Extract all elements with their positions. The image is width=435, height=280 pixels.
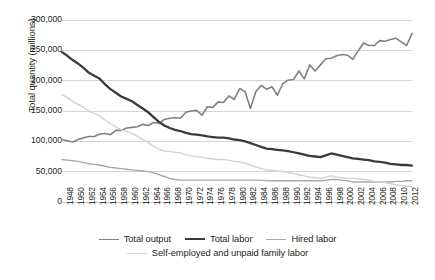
legend-swatch-total-output (99, 239, 119, 240)
chart-area: Total quantity (millions) 300,000250,000… (0, 0, 435, 232)
x-axis-tick-label: 1982 (248, 187, 258, 205)
x-axis-tick-label: 1974 (205, 187, 215, 205)
x-axis-tick-label: 2010 (399, 187, 409, 205)
legend-label-total-output: Total output (124, 234, 171, 244)
legend-label-total-labor: Total labor (210, 234, 252, 244)
x-axis-tick-label: 2012 (410, 187, 420, 205)
x-axis-tick-label: 1956 (108, 187, 118, 205)
x-axis-tick-label: 1978 (227, 187, 237, 205)
x-axis-tick-label: 1998 (335, 187, 345, 205)
x-axis-tick-label: 1996 (324, 187, 334, 205)
x-axis-tick-label: 2000 (345, 187, 355, 205)
legend-swatch-hired-labor (266, 239, 286, 240)
x-axis-tick-label: 2004 (367, 187, 377, 205)
x-axis-tick-label: 1990 (292, 187, 302, 205)
x-axis-tick-label: 1980 (238, 187, 248, 205)
x-axis-tick-label: 1994 (313, 187, 323, 205)
x-axis-tick-label: 2008 (388, 187, 398, 205)
x-axis-tick-label: 1964 (152, 187, 162, 205)
chart-legend: Total output Total labor Hired labor Sel… (0, 232, 435, 266)
legend-item-self-employed: Self-employed and unpaid family labor (127, 248, 308, 258)
x-axis-tick-label: 1986 (270, 187, 280, 205)
x-axis-tick-label: 1952 (87, 187, 97, 205)
legend-swatch-self-employed (127, 253, 147, 254)
legend-swatch-total-labor (185, 238, 205, 240)
x-axis-tick-label: 1954 (98, 187, 108, 205)
x-axis-tick-label: 2002 (356, 187, 366, 205)
figure-caption (0, 268, 435, 277)
x-axis-tick-label: 1958 (119, 187, 129, 205)
x-axis-tick-label: 1984 (259, 187, 269, 205)
x-axis-tick-label: 1992 (302, 187, 312, 205)
x-axis-tick-label: 1962 (141, 187, 151, 205)
legend-label-self-employed: Self-employed and unpaid family labor (152, 248, 308, 258)
x-axis-tick-label: 1960 (130, 187, 140, 205)
figure: Total quantity (millions) 300,000250,000… (0, 0, 435, 280)
x-axis-tick-label: 1988 (281, 187, 291, 205)
legend-label-hired-labor: Hired labor (291, 234, 336, 244)
legend-row-primary: Total output Total labor Hired labor (0, 234, 435, 244)
x-axis-tick-label: 1950 (76, 187, 86, 205)
x-axis-tick-label: 1948 (65, 187, 75, 205)
x-axis-tick-label: 1966 (162, 187, 172, 205)
legend-item-total-output: Total output (99, 234, 171, 244)
x-axis-tick-labels: 1948195019521954195619581960196219641966… (0, 0, 435, 232)
x-axis-tick-label: 2006 (378, 187, 388, 205)
x-axis-tick-label: 1968 (173, 187, 183, 205)
legend-item-total-labor: Total labor (185, 234, 252, 244)
x-axis-tick-label: 1970 (184, 187, 194, 205)
legend-item-hired-labor: Hired labor (266, 234, 336, 244)
x-axis-tick-label: 1976 (216, 187, 226, 205)
legend-row-secondary: Self-employed and unpaid family labor (0, 248, 435, 258)
x-axis-tick-label: 1972 (195, 187, 205, 205)
